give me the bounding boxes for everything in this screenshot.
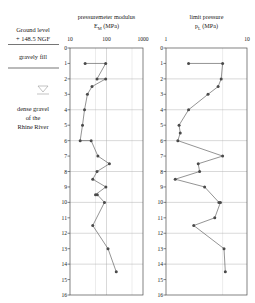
ytick-pressuremeter-modulus-12: 12 bbox=[61, 230, 67, 236]
data-point-pressuremeter-modulus-16 bbox=[96, 193, 99, 196]
data-point-pressuremeter-modulus-8 bbox=[79, 139, 82, 142]
series-line-pressuremeter-modulus-0 bbox=[80, 63, 116, 271]
data-point-limit-pressure-2 bbox=[220, 77, 223, 80]
ytick-limit-pressure-0: 0 bbox=[160, 45, 163, 51]
water-table-icon bbox=[38, 86, 48, 92]
ytick-pressuremeter-modulus-8: 8 bbox=[64, 169, 67, 175]
chart-title-limit-pressure: limit pressure bbox=[190, 13, 224, 20]
ytick-limit-pressure-3: 3 bbox=[160, 91, 163, 97]
ytick-pressuremeter-modulus-0: 0 bbox=[64, 45, 67, 51]
data-point-limit-pressure-5 bbox=[187, 108, 190, 111]
data-point-limit-pressure-9 bbox=[221, 155, 224, 158]
figure-root: Ground level+ 148.5 NGFgravely filldense… bbox=[0, 0, 255, 303]
ytick-limit-pressure-10: 10 bbox=[157, 199, 163, 205]
ytick-limit-pressure-14: 14 bbox=[157, 261, 163, 267]
ytick-pressuremeter-modulus-10: 10 bbox=[61, 199, 67, 205]
data-point-pressuremeter-modulus-3 bbox=[104, 77, 107, 80]
data-point-pressuremeter-modulus-10 bbox=[96, 155, 99, 158]
series-line-limit-pressure-0 bbox=[175, 63, 225, 271]
data-point-pressuremeter-modulus-6 bbox=[83, 108, 86, 111]
data-point-limit-pressure-3 bbox=[217, 85, 220, 88]
xtick-pressuremeter-modulus-0: 10 bbox=[67, 36, 73, 42]
ytick-pressuremeter-modulus-14: 14 bbox=[61, 261, 67, 267]
data-point-pressuremeter-modulus-20 bbox=[115, 270, 118, 273]
xtick-limit-pressure-1: 10 bbox=[244, 36, 250, 42]
data-point-pressuremeter-modulus-7 bbox=[81, 124, 84, 127]
chart-subtitle-limit-pressure: pL (MPa) bbox=[195, 22, 218, 31]
ytick-limit-pressure-15: 15 bbox=[157, 277, 163, 283]
ytick-pressuremeter-modulus-15: 15 bbox=[61, 277, 67, 283]
data-point-pressuremeter-modulus-13 bbox=[91, 178, 94, 181]
ground-level-label-line2: + 148.5 NGF bbox=[16, 35, 50, 42]
data-point-limit-pressure-15 bbox=[219, 201, 222, 204]
data-point-pressuremeter-modulus-1 bbox=[104, 62, 107, 65]
data-point-pressuremeter-modulus-12 bbox=[96, 170, 99, 173]
ytick-limit-pressure-13: 13 bbox=[157, 246, 163, 252]
ytick-limit-pressure-16: 16 bbox=[157, 292, 163, 298]
data-point-limit-pressure-1 bbox=[221, 62, 224, 65]
ytick-pressuremeter-modulus-7: 7 bbox=[64, 153, 67, 159]
ground-level-label-line1: Ground level bbox=[16, 26, 50, 33]
ytick-limit-pressure-9: 9 bbox=[160, 184, 163, 190]
stratum-label-dense-gravel-line1: dense gravel bbox=[17, 105, 49, 112]
ytick-pressuremeter-modulus-9: 9 bbox=[64, 184, 67, 190]
data-point-limit-pressure-18 bbox=[223, 247, 226, 250]
data-point-limit-pressure-0 bbox=[187, 62, 190, 65]
ytick-limit-pressure-4: 4 bbox=[160, 107, 163, 113]
data-point-limit-pressure-10 bbox=[197, 162, 200, 165]
data-point-limit-pressure-8 bbox=[176, 139, 179, 142]
ytick-pressuremeter-modulus-13: 13 bbox=[61, 246, 67, 252]
data-point-pressuremeter-modulus-9 bbox=[90, 139, 93, 142]
ytick-pressuremeter-modulus-6: 6 bbox=[64, 138, 67, 144]
ytick-pressuremeter-modulus-16: 16 bbox=[61, 292, 67, 298]
data-point-limit-pressure-12 bbox=[174, 178, 177, 181]
stratum-label-dense-gravel-line3: Rhine River bbox=[17, 123, 49, 130]
ytick-pressuremeter-modulus-2: 2 bbox=[64, 76, 67, 82]
ytick-pressuremeter-modulus-3: 3 bbox=[64, 91, 67, 97]
xtick-limit-pressure-0: 1 bbox=[165, 36, 168, 42]
data-point-limit-pressure-13 bbox=[203, 185, 206, 188]
data-point-pressuremeter-modulus-11 bbox=[108, 162, 111, 165]
chart-subtitle-pressuremeter-modulus: EM (MPa) bbox=[94, 22, 119, 31]
data-point-pressuremeter-modulus-5 bbox=[86, 93, 89, 96]
data-point-pressuremeter-modulus-4 bbox=[90, 85, 93, 88]
chart-title-pressuremeter-modulus: pressuremeter modulus bbox=[78, 13, 136, 20]
xtick-pressuremeter-modulus-1: 100 bbox=[102, 36, 111, 42]
ytick-limit-pressure-12: 12 bbox=[157, 230, 163, 236]
data-point-limit-pressure-7 bbox=[179, 131, 182, 134]
data-point-limit-pressure-4 bbox=[207, 93, 210, 96]
data-point-limit-pressure-19 bbox=[224, 270, 227, 273]
xtick-pressuremeter-modulus-2: 1000 bbox=[137, 36, 148, 42]
data-point-pressuremeter-modulus-2 bbox=[96, 77, 99, 80]
data-point-limit-pressure-16 bbox=[213, 216, 216, 219]
data-point-pressuremeter-modulus-19 bbox=[107, 247, 110, 250]
ytick-pressuremeter-modulus-5: 5 bbox=[64, 122, 67, 128]
data-point-pressuremeter-modulus-18 bbox=[91, 224, 94, 227]
ytick-limit-pressure-7: 7 bbox=[160, 153, 163, 159]
ytick-pressuremeter-modulus-11: 11 bbox=[62, 215, 68, 221]
data-point-limit-pressure-11 bbox=[198, 170, 201, 173]
ytick-limit-pressure-1: 1 bbox=[160, 60, 163, 66]
stratum-label-dense-gravel-line2: of the bbox=[26, 114, 41, 121]
data-point-pressuremeter-modulus-17 bbox=[103, 201, 106, 204]
ytick-limit-pressure-11: 11 bbox=[158, 215, 164, 221]
stratum-label-gravely-fill: gravely fill bbox=[19, 53, 47, 60]
data-point-pressuremeter-modulus-14 bbox=[104, 185, 107, 188]
data-point-limit-pressure-17 bbox=[192, 224, 195, 227]
ytick-limit-pressure-6: 6 bbox=[160, 138, 163, 144]
ytick-limit-pressure-5: 5 bbox=[160, 122, 163, 128]
data-point-limit-pressure-6 bbox=[178, 124, 181, 127]
ytick-pressuremeter-modulus-1: 1 bbox=[64, 60, 67, 66]
ytick-limit-pressure-2: 2 bbox=[160, 76, 163, 82]
ytick-limit-pressure-8: 8 bbox=[160, 169, 163, 175]
data-point-pressuremeter-modulus-0 bbox=[84, 62, 87, 65]
ytick-pressuremeter-modulus-4: 4 bbox=[64, 107, 67, 113]
